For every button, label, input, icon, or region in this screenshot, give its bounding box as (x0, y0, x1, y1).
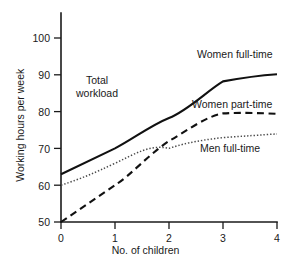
annotation-total-workload: Total workload (66, 74, 128, 100)
y-axis-title: Working hours per week (15, 45, 26, 205)
annotation-total-workload-line1: Total (66, 74, 128, 87)
x-tick-label-4: 4 (263, 233, 291, 244)
y-tick-label-100: 100 (12, 33, 50, 44)
y-tick-label-50: 50 (12, 217, 50, 228)
series-label-women-part-time: Women part-time (192, 99, 272, 110)
chart-container: 100 90 80 70 60 50 0 1 2 3 4 No. of chil… (0, 0, 291, 267)
x-tick-label-2: 2 (155, 233, 183, 244)
x-axis-title: No. of children (0, 245, 291, 256)
x-tick-label-0: 0 (47, 233, 75, 244)
series-label-men-full-time: Men full-time (200, 143, 260, 154)
series-label-women-full-time: Women full-time (197, 49, 273, 60)
annotation-total-workload-line2: workload (66, 87, 128, 100)
x-tick-label-3: 3 (209, 233, 237, 244)
x-tick-label-1: 1 (101, 233, 129, 244)
series-line-women-part-time (61, 113, 277, 222)
